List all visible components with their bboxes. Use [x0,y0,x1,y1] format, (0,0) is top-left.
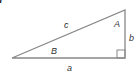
label-B: B [51,46,57,56]
triangle [12,10,125,58]
label-A: A [113,19,120,29]
label-b: b [129,33,134,43]
label-c: c [64,20,69,30]
right-angle-marker [117,50,125,58]
label-a: a [67,63,72,73]
triangle-diagram: c A b B a [0,0,137,75]
